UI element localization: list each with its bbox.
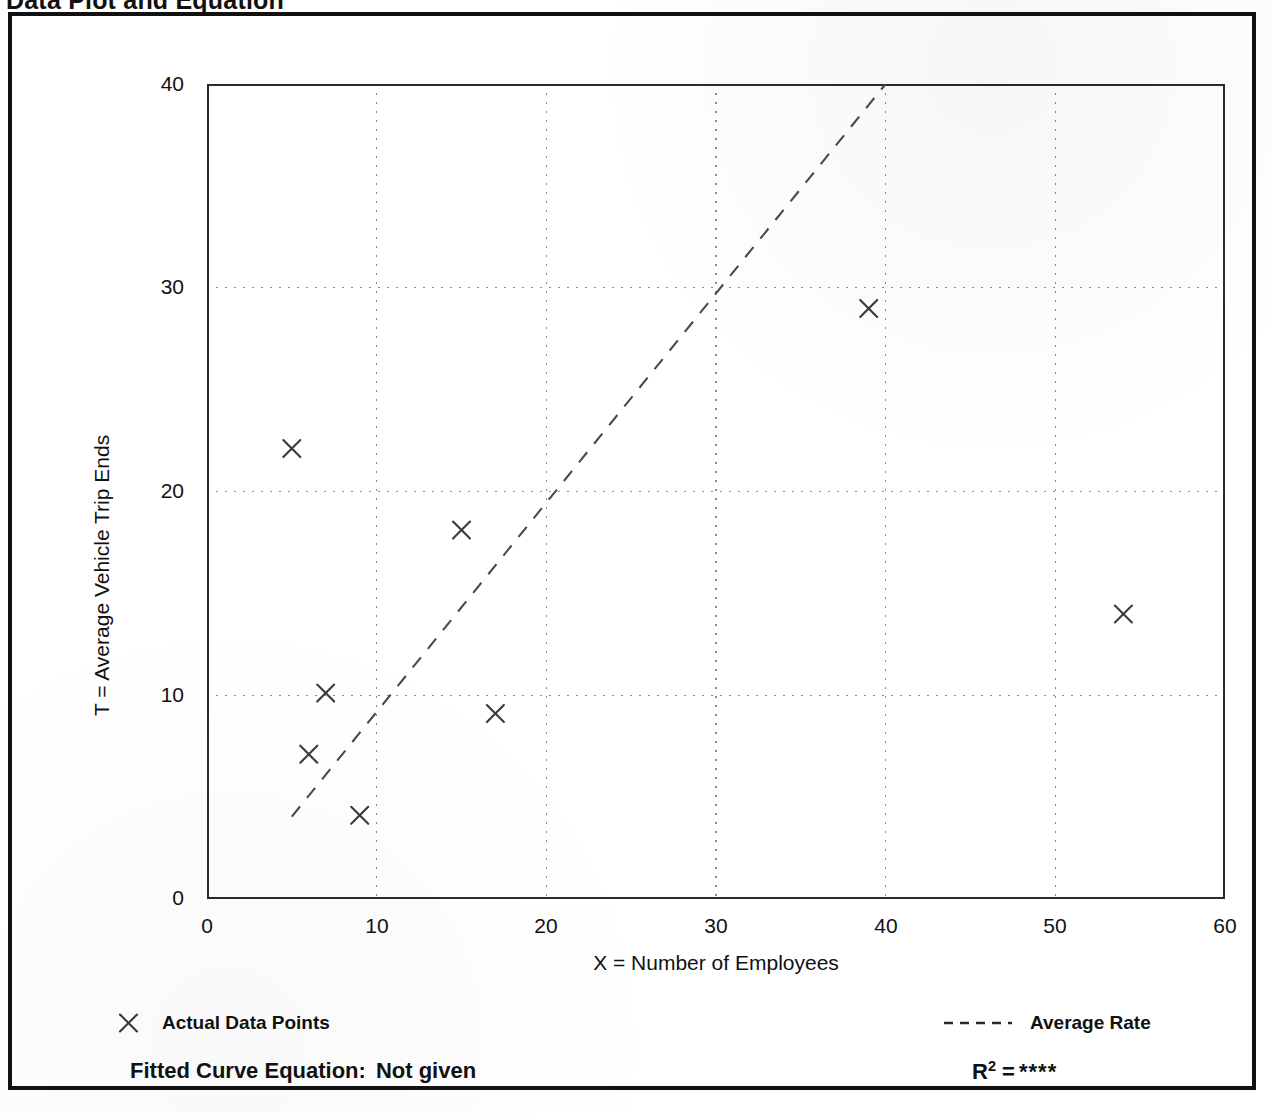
x-axis-title: X = Number of Employees	[207, 951, 1225, 975]
legend-label-actual-data-points: Actual Data Points	[162, 1012, 330, 1034]
x-tick-label-10: 10	[365, 914, 388, 938]
x-tick-label-50: 50	[1043, 914, 1066, 938]
data-point-marker	[317, 685, 334, 702]
trend-line-segment	[292, 84, 886, 817]
r-squared-result: ****	[1019, 1059, 1057, 1084]
data-point-marker	[283, 440, 300, 457]
dashed-line-icon	[942, 1012, 1014, 1034]
x-tick-label-30: 30	[704, 914, 727, 938]
fitted-curve-value: Not given	[376, 1058, 476, 1083]
data-point-marker	[487, 705, 504, 722]
r-squared-equals: =	[1002, 1059, 1015, 1084]
r-squared-exponent: 2	[988, 1058, 996, 1074]
legend-label-average-rate: Average Rate	[1030, 1012, 1151, 1034]
average-rate-trend-line	[292, 84, 886, 817]
y-tick-label-20: 20	[122, 479, 184, 503]
y-tick-label-0: 0	[122, 886, 184, 910]
chart-footer: Fitted Curve Equation:Not given R2 =****	[12, 1058, 1260, 1098]
x-tick-label-60: 60	[1213, 914, 1236, 938]
y-tick-label-40: 40	[122, 72, 184, 96]
data-point-marker	[351, 807, 368, 824]
r-squared-value: R2 =****	[972, 1058, 1057, 1085]
data-point-marker	[300, 746, 317, 763]
y-axis-title: T = Average Vehicle Trip Ends	[90, 156, 114, 716]
grid-lines	[207, 84, 1225, 899]
x-tick-label-40: 40	[874, 914, 897, 938]
data-point-marker	[860, 300, 877, 317]
x-marker-icon	[112, 1012, 146, 1034]
fitted-curve-equation: Fitted Curve Equation:Not given	[130, 1058, 476, 1084]
legend-entry-average-rate: Average Rate	[942, 1006, 1151, 1040]
fitted-curve-label: Fitted Curve Equation:	[130, 1058, 366, 1083]
y-tick-label-30: 30	[122, 275, 184, 299]
data-point-marker	[1115, 606, 1132, 623]
x-tick-label-0: 0	[201, 914, 213, 938]
plot-area	[207, 84, 1225, 899]
chart-legend: Actual Data Points Average Rate	[12, 1006, 1260, 1040]
data-point-marker	[453, 522, 470, 539]
chart-figure-frame: 40 30 20 10 0 0 10 20 30 40 50 60 T = Av…	[8, 12, 1256, 1090]
data-point-markers	[283, 300, 1132, 824]
y-tick-label-10: 10	[122, 683, 184, 707]
legend-entry-actual-data-points: Actual Data Points	[112, 1006, 330, 1040]
r-squared-label: R	[972, 1059, 988, 1084]
x-tick-label-20: 20	[534, 914, 557, 938]
plot-canvas	[207, 84, 1225, 899]
